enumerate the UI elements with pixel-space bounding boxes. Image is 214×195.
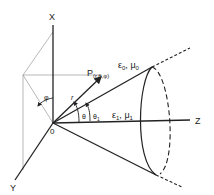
inner-region-label: ε1, μ1 (112, 110, 134, 121)
cone-lower-extension (156, 175, 182, 187)
theta1-arc (86, 103, 90, 121)
theta-label: θ (82, 113, 86, 120)
outer-region-label: ε0, μ0 (118, 60, 140, 71)
construction-lines (23, 32, 100, 170)
theta-arc (74, 102, 79, 122)
x-axis-label: X (49, 12, 55, 22)
point-label: P(r,θ,φ) (87, 68, 109, 79)
y-axis (15, 123, 53, 180)
cone-upper-extension (152, 48, 190, 67)
cone-diagram: X Y Z 0 P(r,θ,φ) r φ θ θ1 ε0, μ0 ε1, μ1 (0, 0, 214, 195)
theta1-label: θ1 (93, 113, 100, 122)
z-axis-label: Z (195, 116, 201, 126)
origin-label: 0 (50, 127, 55, 136)
phi-label: φ (44, 94, 49, 102)
radius-label: r (71, 94, 74, 101)
y-axis-label: Y (10, 183, 16, 193)
